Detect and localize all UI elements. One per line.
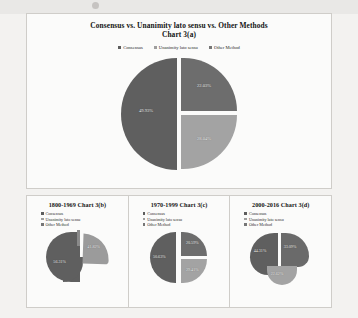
legend-item-consensus: Consensus [118,45,143,50]
pie-label-unanimity: 22.62% [271,271,284,276]
legend-item-consensus: Consensus [244,211,331,216]
legend-swatch-icon [244,218,247,221]
legend-label: Other Method [214,45,240,50]
legend-swatch-icon [244,212,247,215]
pie-label-consensus: 44.31% [254,248,267,253]
panel-legend: Consensus Unanimity lato sensu Other Met… [41,211,128,227]
main-title-line2: Chart 3(a) [27,30,331,39]
pie-label-other: 20.59% [186,240,199,245]
pie-slice-unanimity [83,234,110,265]
panel-chart-3c: 1970-1999 Chart 3(c) Consensus Unanimity… [129,196,231,307]
legend-item-unanimity: Unanimity lato sensu [143,217,230,222]
legend-label: Other Method [46,222,69,227]
main-chart-title: Consensus vs. Unanimity lato sensu vs. O… [27,21,331,40]
panel-legend: Consensus Unanimity lato sensu Other Met… [244,211,331,227]
legend-label: Consensus [249,211,267,216]
legend-swatch-icon [244,223,247,226]
pie-slice-unanimity [181,115,237,169]
legend-label: Other Method [147,222,170,227]
legend-label: Unanimity lato sensu [249,217,284,222]
panel-pie-chart: 56.31% 41.82% [40,228,114,286]
legend-item-other: Other Method [41,222,128,227]
legend-swatch-icon [143,218,146,221]
pie-slice-consensus-extension [63,257,83,282]
legend-label: Unanimity lato sensu [46,217,81,222]
panel-chart-3b: 1800-1969 Chart 3(b) Consensus Unanimity… [27,196,129,307]
panel-title: 2000-2016 Chart 3(d) [230,201,331,208]
legend-swatch-icon [41,212,44,215]
small-charts-table: 1800-1969 Chart 3(b) Consensus Unanimity… [26,195,332,308]
main-chart-legend: Consensus Unanimity lato sensu Other Met… [27,45,331,50]
pie-label-unanimity: 28.04% [197,136,211,141]
pie-slice-other [77,230,80,246]
panel-legend: Consensus Unanimity lato sensu Other Met… [143,211,230,227]
scan-speck [92,2,99,9]
pie-label-other: 22.03% [197,83,211,88]
legend-label: Unanimity lato sensu [147,217,182,222]
panel-chart-3d: 2000-2016 Chart 3(d) Consensus Unanimity… [230,196,331,307]
main-pie-chart: 49.93% 22.03% 28.04% [113,53,245,169]
legend-item-unanimity: Unanimity lato sensu [244,217,331,222]
legend-item-other: Other Method [209,45,240,50]
legend-item-unanimity: Unanimity lato sensu [41,217,128,222]
pie-label-consensus: 50.63% [153,254,166,259]
page-top-band [0,0,358,14]
legend-swatch-icon [41,218,44,221]
panel-title: 1970-1999 Chart 3(c) [129,201,230,208]
pie-slice-other [281,233,309,267]
legend-swatch-icon [143,212,146,215]
legend-label: Unanimity lato sensu [159,45,198,50]
panel-title: 1800-1969 Chart 3(b) [27,201,128,208]
legend-swatch-icon [41,223,44,226]
legend-label: Consensus [123,45,143,50]
main-title-line1: Consensus vs. Unanimity lato sensu vs. O… [27,21,331,30]
legend-label: Consensus [147,211,165,216]
pie-slice-consensus [121,58,177,170]
legend-swatch-icon [118,46,121,49]
pie-label-unanimity: 41.82% [87,244,100,249]
pie-label-unanimity: 29.41% [186,267,199,272]
pie-label-consensus: 49.93% [139,108,153,113]
main-chart-panel: Consensus vs. Unanimity lato sensu vs. O… [26,13,332,189]
legend-item-unanimity: Unanimity lato sensu [154,45,198,50]
legend-swatch-icon [154,46,157,49]
legend-item-other: Other Method [244,222,331,227]
figure-page: Consensus vs. Unanimity lato sensu vs. O… [0,0,358,318]
legend-item-consensus: Consensus [41,211,128,216]
pie-label-other: 33.09% [284,244,297,249]
legend-swatch-icon [143,223,146,226]
legend-swatch-icon [209,46,212,49]
legend-item-other: Other Method [143,222,230,227]
legend-item-consensus: Consensus [143,211,230,216]
legend-label: Other Method [249,222,272,227]
panel-pie-chart: 50.63% 20.59% 29.41% [142,228,216,286]
legend-label: Consensus [46,211,64,216]
panel-pie-chart: 44.31% 33.09% 22.62% [244,228,318,286]
pie-label-consensus: 56.31% [53,259,66,264]
